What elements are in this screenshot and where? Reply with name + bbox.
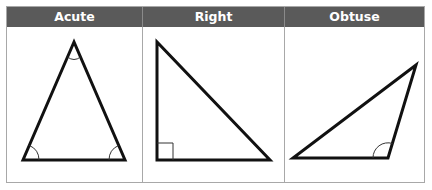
right-angle-marker-icon xyxy=(157,143,173,160)
acute-right-arc-icon xyxy=(109,146,119,161)
obtuse-triangle xyxy=(293,65,416,158)
acute-apex-arc-icon xyxy=(68,57,81,60)
acute-left-arc-icon xyxy=(30,146,40,161)
triangles-drawing xyxy=(0,0,432,190)
acute-triangle xyxy=(23,42,125,160)
right-triangle xyxy=(157,42,270,160)
